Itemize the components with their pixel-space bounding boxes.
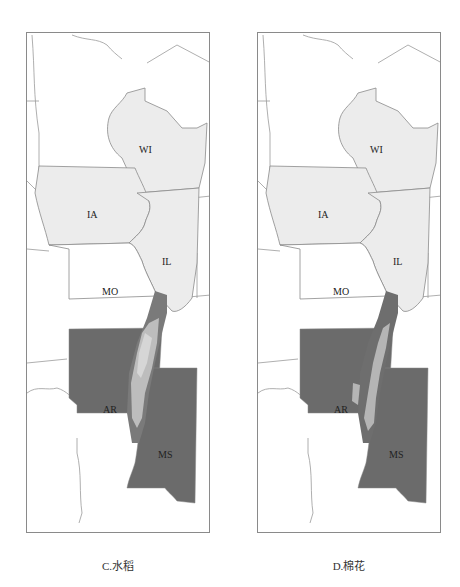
label-il: IL	[162, 256, 171, 267]
label-mo: MO	[333, 286, 349, 297]
label-wi: WI	[139, 144, 152, 155]
map-panel-d: WI IA IL MO AR MS	[257, 32, 441, 533]
label-ar: AR	[103, 404, 117, 415]
map-d-svg: WI IA IL MO AR MS	[258, 33, 441, 533]
label-ms: MS	[389, 449, 403, 460]
label-wi: WI	[370, 144, 383, 155]
state-ia	[35, 166, 150, 245]
state-ia	[266, 166, 381, 245]
label-il: IL	[393, 256, 402, 267]
map-panel-c: WI IA IL MO AR MS	[26, 32, 210, 533]
label-ia: IA	[87, 209, 98, 220]
label-mo: MO	[102, 286, 118, 297]
caption-c: C.水稻	[26, 557, 210, 573]
caption-d: D.棉花	[257, 557, 441, 573]
map-c-svg: WI IA IL MO AR MS	[27, 33, 210, 533]
label-ia: IA	[318, 209, 329, 220]
label-ms: MS	[158, 449, 172, 460]
label-ar: AR	[334, 404, 348, 415]
